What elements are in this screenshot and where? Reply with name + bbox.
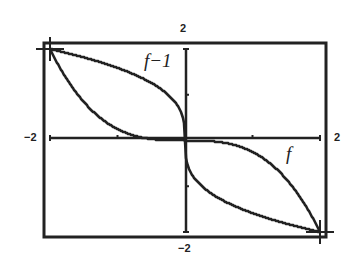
xmax-label: 2 — [334, 131, 340, 143]
ymax-label: 2 — [180, 22, 186, 34]
intersection-marker — [306, 220, 334, 244]
xmin-label: −2 — [24, 131, 37, 143]
curve-label-f: f — [286, 143, 291, 165]
intersection-marker — [36, 37, 64, 61]
ymin-label: −2 — [178, 242, 191, 254]
curve-label-f-inverse: f−1 — [144, 50, 172, 72]
graph-plot — [0, 0, 358, 265]
